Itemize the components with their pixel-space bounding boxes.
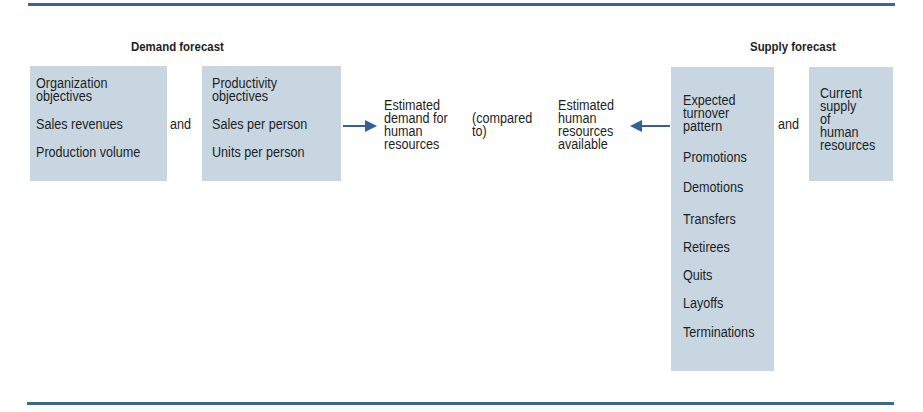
box-header-line: pattern — [683, 120, 722, 133]
list-item: Production volume — [36, 146, 140, 159]
and-connector: and — [170, 118, 191, 131]
compared-to-line: to) — [472, 125, 487, 138]
box-header-line: objectives — [36, 90, 92, 103]
arrow-right-icon — [343, 125, 375, 127]
list-item: Promotions — [683, 151, 747, 164]
box-header-line: objectives — [212, 90, 268, 103]
estimated-supply-line: available — [558, 138, 608, 151]
current-supply-box: Current supply of human resources — [809, 67, 893, 181]
list-item: Demotions — [683, 181, 743, 194]
list-item: Quits — [683, 269, 712, 282]
list-item: Transfers — [683, 213, 736, 226]
expected-turnover-box: Expected turnover pattern Promotions Dem… — [671, 67, 774, 371]
top-rule — [28, 3, 895, 6]
organization-objectives-box: Organization objectives Sales revenues P… — [30, 66, 167, 181]
list-item: Terminations — [683, 326, 754, 339]
list-item: Units per person — [212, 146, 304, 159]
productivity-objectives-box: Productivity objectives Sales per person… — [202, 66, 341, 181]
supply-forecast-heading: Supply forecast — [750, 39, 836, 54]
list-item: Retirees — [683, 241, 730, 254]
demand-forecast-heading: Demand forecast — [131, 39, 224, 54]
arrow-left-icon — [632, 125, 670, 127]
list-item: Sales per person — [212, 118, 307, 131]
list-item: Layoffs — [683, 297, 723, 310]
box-line: resources — [820, 139, 875, 152]
list-item: Sales revenues — [36, 118, 123, 131]
estimated-demand-line: resources — [384, 138, 439, 151]
bottom-rule — [27, 402, 894, 405]
and-connector: and — [778, 118, 799, 131]
